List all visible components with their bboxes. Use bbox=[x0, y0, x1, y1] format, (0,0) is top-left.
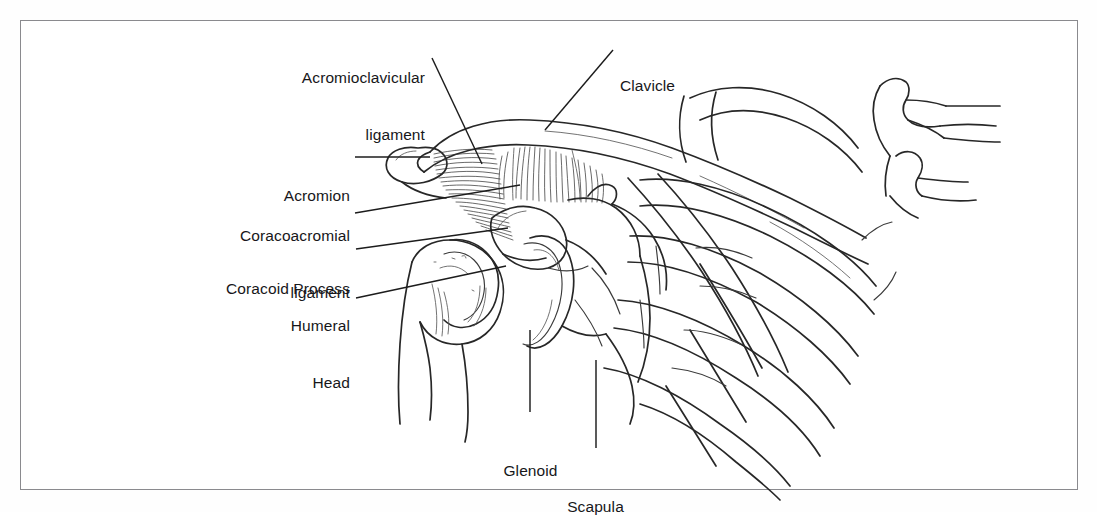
figure-frame bbox=[20, 20, 1078, 490]
label-line-1: Humeral bbox=[215, 316, 350, 335]
label-line-2: Head bbox=[215, 373, 350, 392]
label-humeral-head: Humeral Head bbox=[215, 278, 350, 430]
label-line-1: Scapula bbox=[553, 497, 638, 516]
label-line-2: ligament bbox=[255, 125, 425, 144]
label-line-1: Acromioclavicular bbox=[255, 68, 425, 87]
label-scapula: Scapula bbox=[553, 459, 638, 519]
label-clavicle: Clavicle bbox=[620, 38, 740, 133]
label-line-1: Clavicle bbox=[620, 76, 740, 95]
